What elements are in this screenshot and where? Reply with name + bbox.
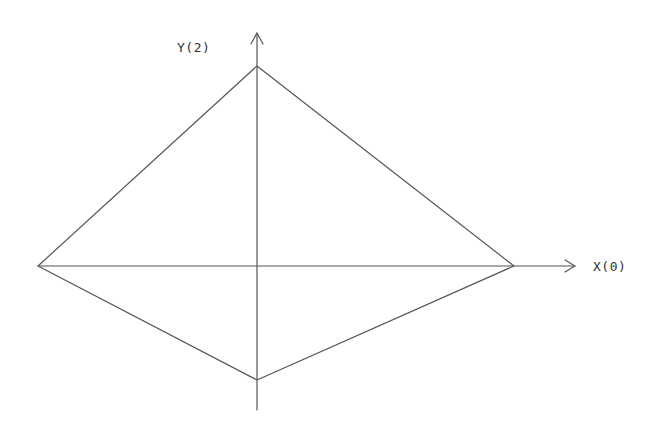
quadrilateral-shape xyxy=(38,66,514,380)
y-axis-label: Y(2) xyxy=(177,40,210,55)
x-axis-label: X(0) xyxy=(593,259,626,274)
diagram-canvas xyxy=(0,0,658,434)
